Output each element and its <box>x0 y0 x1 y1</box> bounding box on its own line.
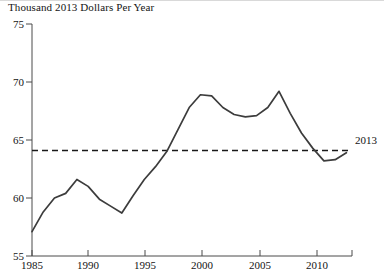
data-series-line <box>32 91 346 231</box>
chart-container: Thousand 2013 Dollars Per Year 75 70 65 … <box>0 0 384 273</box>
chart-plot-area <box>0 0 384 273</box>
